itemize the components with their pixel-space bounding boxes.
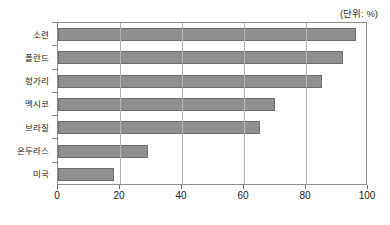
y-axis-tick (52, 69, 57, 70)
bar-row (58, 163, 368, 186)
bar-row (58, 70, 368, 93)
gridline (244, 23, 245, 184)
unit-annotation: (단위: %) (340, 6, 378, 20)
x-axis-label-60: 60 (237, 190, 248, 201)
bar-chart: (단위: %) 소련폴란드헝가리멕시코브라질온두라스미국 02040608010… (0, 0, 390, 225)
x-axis-label-0: 0 (54, 190, 60, 201)
category-label-헝가리: 헝가리 (25, 69, 53, 92)
x-axis-tick (305, 185, 306, 189)
category-label-소련: 소련 (33, 22, 53, 45)
bar-row (58, 46, 368, 69)
bar-헝가리 (58, 75, 322, 88)
bar-소련 (58, 28, 356, 41)
category-label-미국: 미국 (33, 162, 53, 185)
y-axis-tick (52, 138, 57, 139)
bar-멕시코 (58, 98, 275, 111)
x-axis-label-100: 100 (359, 190, 376, 201)
bar-미국 (58, 168, 114, 181)
x-axis-label-40: 40 (175, 190, 186, 201)
category-axis-labels: 소련폴란드헝가리멕시코브라질온두라스미국 (0, 22, 53, 185)
y-axis-tick (52, 22, 57, 23)
x-axis-tick (367, 185, 368, 189)
y-axis-tick (52, 92, 57, 93)
bar-폴란드 (58, 51, 343, 64)
bars-layer (58, 23, 366, 184)
bar-온두라스 (58, 145, 148, 158)
bar-row (58, 23, 368, 46)
y-axis-tick (52, 45, 57, 46)
gridline (120, 23, 121, 184)
category-label-폴란드: 폴란드 (25, 45, 53, 68)
bar-브라질 (58, 121, 260, 134)
x-axis-tick (243, 185, 244, 189)
x-axis-tick (119, 185, 120, 189)
x-axis-tick (57, 185, 58, 189)
category-label-브라질: 브라질 (25, 115, 53, 138)
gridline (182, 23, 183, 184)
y-axis-tick (52, 115, 57, 116)
plot-area (57, 22, 367, 185)
bar-row (58, 116, 368, 139)
category-label-멕시코: 멕시코 (25, 92, 53, 115)
y-axis-tick (52, 162, 57, 163)
bar-row (58, 139, 368, 162)
category-label-온두라스: 온두라스 (17, 138, 53, 161)
x-axis-label-80: 80 (299, 190, 310, 201)
bar-row (58, 93, 368, 116)
gridline (306, 23, 307, 184)
x-axis-label-20: 20 (113, 190, 124, 201)
x-axis-tick (181, 185, 182, 189)
